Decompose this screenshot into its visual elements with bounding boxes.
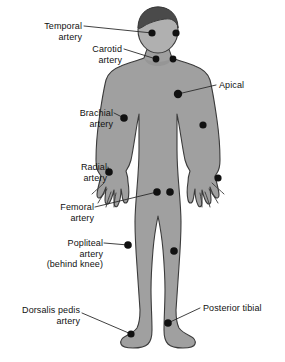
label-line: artery xyxy=(22,316,80,327)
label-line: artery xyxy=(60,213,94,224)
label-line: Posterior tibial xyxy=(203,303,262,314)
label-radial-artery: Radial artery xyxy=(81,162,107,183)
pulse-dot-femoral-right xyxy=(166,188,174,196)
label-dorsalis-pedis-artery: Dorsalis pedis artery xyxy=(22,305,80,326)
pulse-dot-popliteal-right xyxy=(170,247,178,255)
pulse-dot-temporal-right xyxy=(172,29,179,36)
label-line: Temporal xyxy=(44,21,82,32)
label-line: Apical xyxy=(219,80,244,91)
pulse-dot-apical xyxy=(174,90,182,98)
label-line: Radial xyxy=(81,162,107,173)
pulse-dot-popliteal-left xyxy=(124,241,132,249)
label-carotid-artery: Carotid artery xyxy=(92,44,122,65)
label-temporal-artery: Temporal artery xyxy=(44,21,82,42)
label-apical: Apical xyxy=(219,80,244,91)
label-line: Carotid xyxy=(92,44,122,55)
label-femoral-artery: Femoral artery xyxy=(60,202,94,223)
label-line: Popliteal xyxy=(47,238,103,249)
pulse-dot-femoral-left xyxy=(153,188,161,196)
label-line: Brachial xyxy=(80,108,113,119)
body-shape xyxy=(96,44,220,348)
label-line: Femoral xyxy=(60,202,94,213)
label-line: artery xyxy=(44,32,82,43)
leader-dorsalis-pedis xyxy=(82,313,131,334)
label-popliteal-artery: Popliteal artery (behind knee) xyxy=(47,238,103,270)
label-line: Dorsalis pedis xyxy=(22,305,80,316)
label-brachial-artery: Brachial artery xyxy=(80,108,113,129)
label-line: (behind knee) xyxy=(47,259,103,270)
pulse-dot-brachial-left xyxy=(120,114,128,122)
label-posterior-tibial: Posterior tibial xyxy=(203,303,262,314)
label-line: artery xyxy=(81,173,107,184)
label-line: artery xyxy=(92,55,122,66)
pulse-dot-dorsalis-pedis xyxy=(127,330,134,337)
label-line: artery xyxy=(47,249,103,260)
pulse-dot-carotid-left xyxy=(153,56,160,63)
pulse-dot-temporal-left xyxy=(148,29,155,36)
pulse-dot-brachial-right xyxy=(199,121,206,128)
pulse-dot-carotid-right xyxy=(170,56,177,63)
pulse-dot-radial-right xyxy=(214,174,221,181)
artery-pulse-points-figure: Temporal artery Carotid artery Apical Br… xyxy=(0,0,285,362)
label-line: artery xyxy=(80,119,113,130)
pulse-dot-posterior-tibial xyxy=(164,319,172,327)
